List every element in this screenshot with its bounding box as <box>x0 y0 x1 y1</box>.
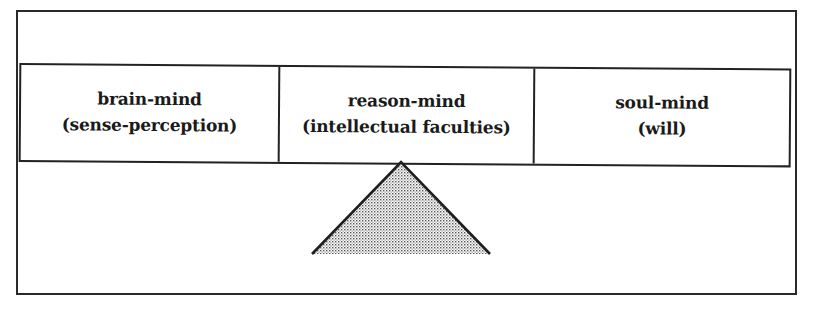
section-title: soul-mind <box>615 89 709 116</box>
section-title: brain-mind <box>97 85 202 112</box>
section-subtitle: (will) <box>637 115 686 141</box>
section-subtitle: (intellectual faculties) <box>302 112 511 139</box>
balance-beam: brain-mind (sense-perception) reason-min… <box>19 63 792 167</box>
section-title: reason-mind <box>348 87 466 114</box>
section-subtitle: (sense-perception) <box>62 111 238 138</box>
section-brain-mind: brain-mind (sense-perception) <box>21 65 281 162</box>
fulcrum-triangle-icon <box>308 160 494 257</box>
section-reason-mind: reason-mind (intellectual faculties) <box>280 67 536 164</box>
section-soul-mind: soul-mind (will) <box>535 69 790 166</box>
